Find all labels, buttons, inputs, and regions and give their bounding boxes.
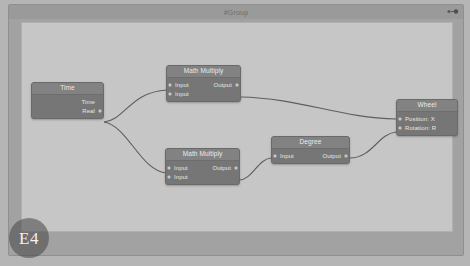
port-label: Input — [174, 174, 188, 180]
node-degree-body: Input Output — [272, 149, 349, 163]
port-dot-input[interactable] — [273, 154, 277, 158]
port-label: Output — [213, 82, 232, 88]
node-math-multiply-top[interactable]: Math Multiply Input Output Input — [166, 65, 241, 102]
node-time-output-time[interactable]: Time — [32, 97, 103, 106]
port-dot-input[interactable] — [167, 175, 171, 179]
port-label: Time — [81, 99, 95, 105]
watermark-label: E4 — [19, 230, 39, 247]
port-dot-output[interactable] — [235, 83, 239, 87]
node-math-multiply-top-header[interactable]: Math Multiply — [167, 66, 240, 78]
node-math-multiply-top-body: Input Output Input — [167, 78, 240, 101]
node-collapse-icon[interactable] — [444, 6, 460, 17]
port-label: Rotation: R — [405, 125, 436, 131]
port-dot-output[interactable] — [234, 166, 238, 170]
port-dot-output[interactable] — [344, 154, 348, 158]
port-label: Input — [174, 165, 188, 171]
node-math-multiply-top-input-2[interactable]: Input — [167, 89, 240, 98]
node-wheel-body: Position: X Rotation: R — [397, 112, 457, 135]
node-time-header[interactable]: Time — [32, 83, 103, 95]
port-label: Input — [280, 153, 294, 159]
node-math-multiply-bottom-header[interactable]: Math Multiply — [166, 149, 239, 161]
node-math-multiply-top-title: Math Multiply — [184, 68, 224, 75]
port-dot-input[interactable] — [168, 92, 172, 96]
node-wheel-header[interactable]: Wheel — [397, 100, 457, 112]
port-label: Real — [82, 108, 95, 114]
node-wheel-input-rotation-r[interactable]: Rotation: R — [397, 123, 457, 132]
node-graph-editor[interactable]: #Group Time Time — [0, 0, 470, 266]
node-math-multiply-bottom-input-2[interactable]: Input — [166, 172, 239, 181]
port-label: Output — [212, 165, 231, 171]
node-degree-header[interactable]: Degree — [272, 137, 349, 149]
node-math-multiply-bottom[interactable]: Math Multiply Input Output Input — [165, 148, 240, 185]
port-dot-input[interactable] — [168, 83, 172, 87]
node-degree-title: Degree — [300, 139, 322, 146]
port-dot-input[interactable] — [167, 166, 171, 170]
port-dot-input[interactable] — [398, 117, 402, 121]
watermark-badge: E4 — [9, 218, 49, 258]
node-time-title: Time — [60, 85, 75, 92]
node-time[interactable]: Time Time Real — [31, 82, 104, 119]
node-group-canvas[interactable] — [21, 22, 453, 232]
port-dot-output[interactable] — [98, 109, 102, 113]
node-time-body: Time Real — [32, 95, 103, 118]
node-group-title: #Group — [224, 9, 249, 16]
node-math-multiply-bottom-body: Input Output Input — [166, 161, 239, 184]
port-label: Output — [322, 153, 341, 159]
node-math-multiply-bottom-row-1[interactable]: Input Output — [166, 163, 239, 172]
node-wheel-title: Wheel — [418, 102, 437, 109]
node-wheel[interactable]: Wheel Position: X Rotation: R — [396, 99, 458, 136]
node-math-multiply-bottom-title: Math Multiply — [183, 151, 223, 158]
node-degree-row-1[interactable]: Input Output — [272, 151, 349, 160]
node-wheel-input-position-x[interactable]: Position: X — [397, 114, 457, 123]
node-degree[interactable]: Degree Input Output — [271, 136, 350, 164]
port-dot-input[interactable] — [398, 126, 402, 130]
node-time-output-real[interactable]: Real — [32, 106, 103, 115]
port-label: Input — [175, 82, 189, 88]
port-label: Input — [175, 91, 189, 97]
node-group-titlebar[interactable]: #Group — [9, 5, 463, 19]
node-math-multiply-top-row-1[interactable]: Input Output — [167, 80, 240, 89]
port-label: Position: X — [405, 116, 435, 122]
